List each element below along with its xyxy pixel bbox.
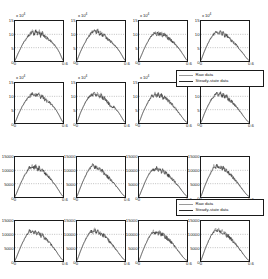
subplot-panel: x 10405101500.6 (200, 14, 250, 62)
y-axis-tick-label: 15 (133, 19, 138, 23)
y-axis-tick-label: 10000 (188, 233, 200, 237)
subplot-panel: 05000100001500000.6 (76, 150, 126, 198)
y-axis-tick-label: 5000 (128, 183, 137, 187)
y-axis-exponent-label: x 104 (78, 75, 87, 80)
x-axis-tick-label: 0 (200, 262, 202, 266)
y-axis-tick-label: 5 (11, 47, 13, 51)
y-axis-tick-label: 10 (71, 95, 76, 99)
subplot-figure: x 10405101500.6x 10405101500.6x 10405101… (0, 0, 268, 279)
plot-axes: 05000100001500000.6 (14, 156, 64, 198)
x-axis-tick-label: 0.6 (62, 62, 68, 66)
legend-line-swatch (179, 210, 193, 211)
x-axis-tick-label: 0.6 (248, 124, 254, 128)
plot-axes: 05000100001500000.6 (76, 156, 126, 198)
series-line (77, 163, 125, 196)
x-axis-tick-label: 0 (138, 262, 140, 266)
legend-line-swatch (179, 204, 193, 205)
y-axis-tick-label: 15 (71, 81, 76, 85)
x-axis-tick-label: 0.6 (248, 62, 254, 66)
y-axis-exponent-label: x 104 (140, 13, 149, 18)
x-axis-tick-label: 0.6 (62, 198, 68, 202)
x-axis-tick-label: 0.6 (124, 62, 130, 66)
legend-label: Steady-state data (196, 208, 229, 212)
x-axis-tick-label: 0 (138, 62, 140, 66)
legend-entry: Steady-state data (179, 208, 261, 214)
legend-label: Steady-state data (196, 79, 229, 83)
series-line (201, 164, 249, 196)
y-axis-tick-label: 5 (197, 109, 199, 113)
plot-canvas (77, 21, 125, 61)
x-axis-tick-label: 0 (14, 124, 16, 128)
y-axis-exponent-label: x 104 (140, 75, 149, 80)
plot-canvas (201, 21, 249, 61)
y-axis-tick-label: 15000 (188, 155, 200, 159)
x-axis-tick-label: 0.6 (124, 198, 130, 202)
series-line (15, 93, 63, 123)
y-axis-tick-label: 5 (11, 109, 13, 113)
x-axis-tick-label: 0.6 (62, 262, 68, 266)
y-axis-tick-label: 10 (133, 33, 138, 37)
subplot-group-bottom: 05000100001500000.605000100001500000.605… (0, 139, 268, 279)
plot-canvas (139, 83, 187, 123)
y-axis-tick-label: 5 (135, 109, 137, 113)
plot-axes: 05101500.6 (200, 20, 250, 62)
legend-box: Raw dataSteady-state data (176, 70, 264, 87)
y-axis-tick-label: 5 (197, 47, 199, 51)
x-axis-tick-label: 0.6 (62, 124, 68, 128)
plot-axes: 05000100001500000.6 (138, 156, 188, 198)
plot-canvas (139, 157, 187, 197)
y-axis-tick-label: 15 (71, 19, 76, 23)
subplot-panel: x 10405101500.6 (14, 76, 64, 124)
x-axis-tick-label: 0 (14, 198, 16, 202)
series-line (77, 229, 125, 260)
subplot-panel: 05000100001500000.6 (76, 214, 126, 262)
y-axis-tick-label: 10000 (2, 233, 14, 237)
y-axis-tick-label: 15 (195, 19, 200, 23)
y-axis-tick-label: 10000 (188, 169, 200, 173)
x-axis-tick-label: 0 (138, 198, 140, 202)
plot-axes: 05000100001500000.6 (14, 220, 64, 262)
subplot-panel: x 10405101500.6 (76, 76, 126, 124)
series-line (15, 30, 63, 61)
plot-canvas (15, 157, 63, 197)
y-axis-tick-label: 15000 (126, 219, 138, 223)
plot-axes: 05000100001500000.6 (76, 220, 126, 262)
x-axis-tick-label: 0.6 (186, 124, 192, 128)
y-axis-tick-label: 15000 (64, 155, 76, 159)
subplot-panel: 05000100001500000.6 (138, 150, 188, 198)
y-axis-tick-label: 15000 (2, 155, 14, 159)
subplot-panel: 05000100001500000.6 (138, 214, 188, 262)
x-axis-tick-label: 0.6 (124, 124, 130, 128)
plot-axes: 05101500.6 (14, 82, 64, 124)
plot-axes: 05000100001500000.6 (200, 156, 250, 198)
y-axis-exponent-label: x 104 (16, 13, 25, 18)
subplot-panel: x 10405101500.6 (138, 14, 188, 62)
plot-axes: 05101500.6 (14, 20, 64, 62)
y-axis-tick-label: 15000 (2, 219, 14, 223)
y-axis-tick-label: 5000 (128, 247, 137, 251)
series-line (77, 164, 125, 196)
y-axis-exponent-label: x 104 (202, 13, 211, 18)
subplot-panel: x 10405101500.6 (14, 14, 64, 62)
x-axis-tick-label: 0 (200, 124, 202, 128)
y-axis-tick-label: 5 (73, 47, 75, 51)
y-axis-tick-label: 10 (71, 33, 76, 37)
legend-line-swatch (179, 75, 193, 76)
plot-canvas (201, 221, 249, 261)
plot-canvas (77, 221, 125, 261)
subplot-panel: 05000100001500000.6 (14, 150, 64, 198)
plot-canvas (15, 83, 63, 123)
y-axis-tick-label: 5 (73, 109, 75, 113)
series-line (139, 167, 187, 197)
y-axis-tick-label: 10000 (126, 169, 138, 173)
y-axis-tick-label: 10000 (64, 169, 76, 173)
series-line (201, 30, 249, 60)
y-axis-tick-label: 15 (133, 81, 138, 85)
plot-axes: 05101500.6 (200, 82, 250, 124)
series-line (139, 93, 187, 123)
y-axis-tick-label: 10 (195, 95, 200, 99)
legend-entry: Steady-state data (179, 79, 261, 85)
plot-axes: 05101500.6 (138, 20, 188, 62)
legend-box: Raw dataSteady-state data (176, 199, 264, 216)
y-axis-tick-label: 5000 (4, 247, 13, 251)
